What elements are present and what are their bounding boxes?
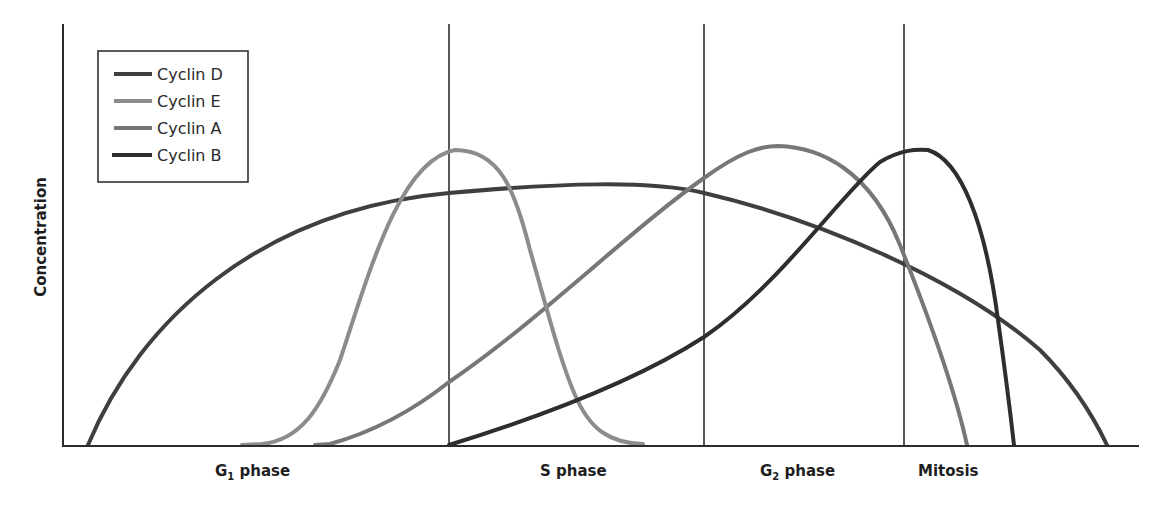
x-label-g1-phase: G1 phase: [215, 462, 290, 482]
x-label-s-phase: S phase: [540, 462, 607, 480]
cyclin-concentration-chart: Concentration Cyclin D Cyclin E Cyclin A…: [0, 0, 1167, 513]
legend-label-cyclin-e: Cyclin E: [157, 92, 221, 111]
legend: Cyclin D Cyclin E Cyclin A Cyclin B: [98, 51, 248, 182]
x-label-g2-phase: G2 phase: [760, 462, 835, 482]
curve-cyclin-d: [88, 184, 1107, 445]
curve-cyclin-b: [449, 150, 1014, 445]
legend-label-cyclin-d: Cyclin D: [157, 65, 223, 84]
legend-label-cyclin-a: Cyclin A: [157, 119, 222, 138]
curve-cyclin-a: [315, 146, 967, 445]
x-label-mitosis: Mitosis: [918, 462, 979, 480]
legend-label-cyclin-b: Cyclin B: [157, 146, 222, 165]
y-axis-label: Concentration: [32, 177, 50, 297]
